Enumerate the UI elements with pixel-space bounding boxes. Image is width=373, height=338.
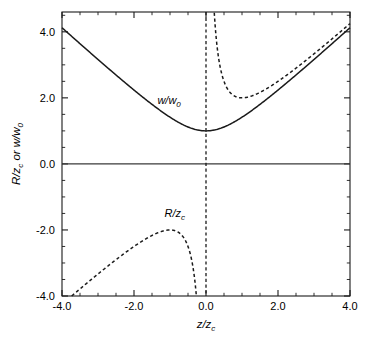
y-tick-labels: -4.0-2.00.02.04.0 (36, 26, 55, 302)
y-tick-label: 2.0 (40, 92, 55, 104)
w-over-w0-label: w/w0 (157, 94, 181, 109)
y-tick-label: 4.0 (40, 26, 55, 38)
curve-r-over-zc-positive (214, 13, 350, 98)
x-tick-label: -2.0 (125, 300, 144, 312)
y-axis-title: R/zc or w/w0 (10, 122, 25, 185)
x-tick-label: -4.0 (53, 300, 72, 312)
x-tick-label: 4.0 (342, 300, 357, 312)
gaussian-beam-plot: -4.0-2.00.02.04.0 -4.0-2.00.02.04.0 w/w0… (0, 0, 373, 338)
x-axis-title: z/zc (196, 318, 216, 333)
figure-container: -4.0-2.00.02.04.0 -4.0-2.00.02.04.0 w/w0… (0, 0, 373, 338)
y-tick-label: -4.0 (36, 290, 55, 302)
x-tick-labels: -4.0-2.00.02.04.0 (53, 300, 358, 312)
y-tick-label: -2.0 (36, 224, 55, 236)
r-over-zc-label: R/zc (165, 207, 186, 222)
x-tick-label: 0.0 (198, 300, 213, 312)
y-tick-label: 0.0 (40, 158, 55, 170)
x-tick-label: 2.0 (270, 300, 285, 312)
curve-r-over-zc-negative (72, 230, 197, 296)
